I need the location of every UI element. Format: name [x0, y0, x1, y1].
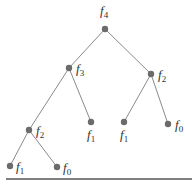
node-label: f1 — [87, 127, 95, 144]
tree-labels: f4f3f2f2f1f1f0f1f0 — [16, 3, 184, 177]
tree-node — [121, 119, 127, 125]
node-label: f1 — [16, 159, 24, 176]
node-label: f2 — [158, 67, 166, 84]
tree-node — [66, 65, 72, 71]
node-label: f1 — [120, 127, 128, 144]
tree-node — [165, 121, 171, 127]
node-label: f2 — [36, 123, 44, 140]
tree-edge — [69, 29, 105, 68]
tree-edge — [105, 29, 151, 74]
tree-node — [88, 119, 94, 125]
tree-node — [54, 164, 60, 170]
tree-node — [102, 26, 108, 32]
node-label: f0 — [175, 117, 184, 134]
node-label: f3 — [76, 61, 85, 78]
tree-node — [7, 163, 13, 169]
tree-edge — [124, 74, 151, 122]
recursion-tree-diagram: f4f3f2f2f1f1f0f1f0 — [0, 0, 192, 184]
node-label: f0 — [63, 160, 72, 177]
tree-node — [26, 127, 32, 133]
node-label: f4 — [100, 3, 109, 20]
tree-edges — [10, 29, 168, 167]
tree-nodes — [7, 26, 171, 170]
tree-node — [148, 71, 154, 77]
tree-edge — [29, 68, 69, 130]
